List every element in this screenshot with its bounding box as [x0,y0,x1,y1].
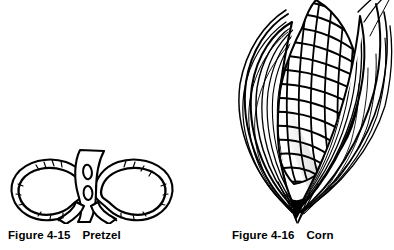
figure-pretzel: Figure 4-15Pretzel [0,0,200,250]
caption-pretzel-number: Figure 4-15 [8,229,70,241]
caption-corn: Figure 4-16Corn [232,228,334,242]
corn-line-drawing [220,0,394,224]
pretzel-line-drawing [6,88,178,224]
caption-corn-title: Corn [306,229,333,241]
caption-corn-number: Figure 4-16 [232,229,294,241]
pretzel-right-loop [94,160,172,221]
figure-corn: Figure 4-16Corn [210,0,394,250]
caption-pretzel-title: Pretzel [82,229,120,241]
figure-plate: Figure 4-15Pretzel [0,0,394,250]
caption-pretzel: Figure 4-15Pretzel [8,228,121,242]
